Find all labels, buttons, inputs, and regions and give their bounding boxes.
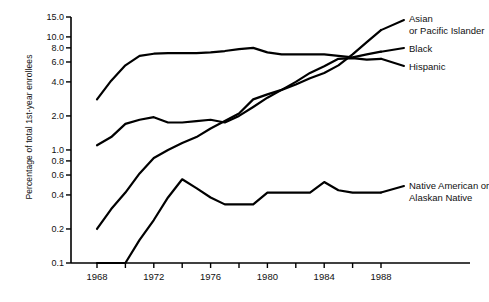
series-label-native-american: Native American or Alaskan Native (409, 180, 489, 203)
series-label-hispanic-text: Hispanic (409, 61, 445, 72)
series-label-asian: Asian or Pacific Islander (409, 13, 485, 36)
series-label-asian-line1: Asian (409, 13, 433, 24)
series-label-black-text: Black (409, 43, 432, 54)
series-label-asian-line2: or Pacific Islander (409, 25, 485, 36)
series-line-native-american-or-alaskan-native (97, 179, 381, 263)
series-label-hispanic: Hispanic (409, 61, 445, 73)
series-label-black: Black (409, 43, 432, 55)
series-label-native-line2: Alaskan Native (409, 192, 472, 203)
series-line-hispanic (97, 58, 381, 145)
data-series-group (97, 30, 381, 263)
leader-line-hispanic (381, 59, 404, 66)
leader-line-black (381, 48, 404, 52)
leader-line-asian (381, 20, 404, 30)
leader-line-native-american (381, 186, 404, 193)
series-line-black (97, 48, 381, 100)
series-leader-lines (381, 20, 404, 193)
series-label-native-line1: Native American or (409, 180, 489, 191)
